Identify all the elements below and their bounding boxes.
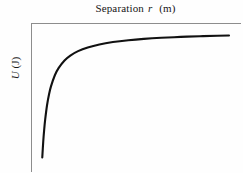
potential-energy-curve [42,35,229,157]
potential-energy-figure: Separation r (m) U (J) [0,0,243,173]
plot-area [0,0,243,173]
